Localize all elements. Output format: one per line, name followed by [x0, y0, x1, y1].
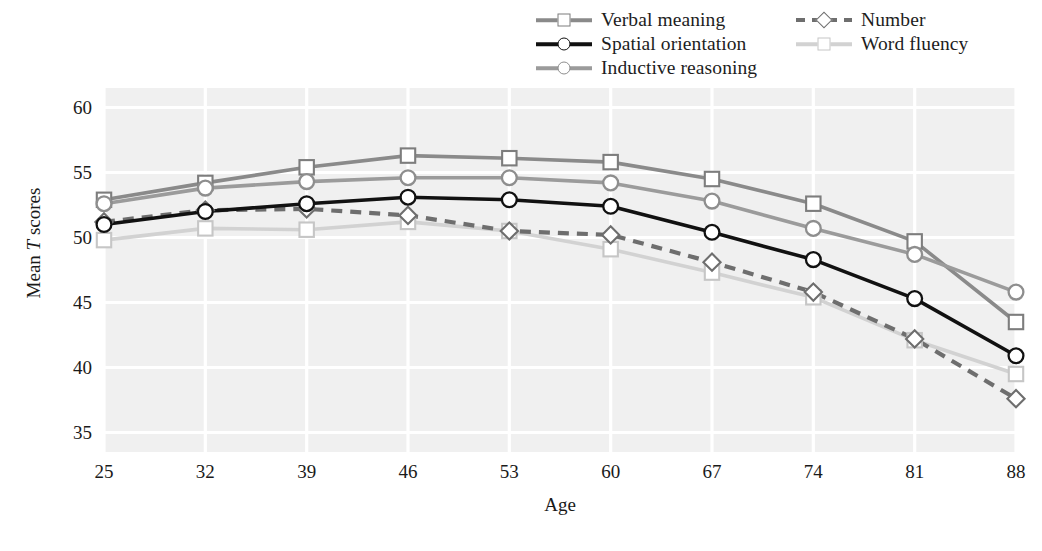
- x-axis-tick-label: 53: [479, 462, 539, 481]
- y-axis-tick-label: 40: [44, 358, 92, 377]
- y-axis-tick-label: 45: [44, 293, 92, 312]
- x-axis-tick-label: 81: [885, 462, 945, 481]
- x-axis-tick-label: 60: [581, 462, 641, 481]
- y-axis-tick-label: 50: [44, 228, 92, 247]
- chart-figure: Verbal meaning Number Spatial orientatio…: [0, 0, 1042, 551]
- x-axis-tick-label: 39: [277, 462, 337, 481]
- y-axis-title-prefix: Mean: [23, 250, 44, 298]
- y-axis-tick-label: 60: [44, 98, 92, 117]
- x-axis-tick-label: 25: [74, 462, 134, 481]
- y-axis-tick-label: 55: [44, 163, 92, 182]
- x-axis-tick-label: 74: [783, 462, 843, 481]
- plot-area-wrapper: Mean T scores Age 605550454035 253239465…: [0, 0, 1042, 551]
- x-axis-tick-label: 32: [175, 462, 235, 481]
- x-axis-tick-label: 67: [682, 462, 742, 481]
- x-axis-tick-label: 88: [986, 462, 1042, 481]
- plot-background-layer: [104, 88, 1016, 452]
- x-axis-title: Age: [104, 494, 1016, 516]
- y-axis-title: Mean T scores: [23, 143, 45, 343]
- y-axis-title-suffix: scores: [23, 188, 44, 240]
- y-axis-tick-label: 35: [44, 423, 92, 442]
- y-axis-title-italic: T: [23, 240, 44, 251]
- x-axis-tick-label: 46: [378, 462, 438, 481]
